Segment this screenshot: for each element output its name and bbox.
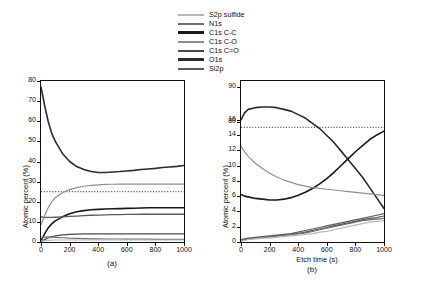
series-line-o1s [41,87,184,173]
y-tick-label: 0 [214,237,236,244]
panel-b-tag: (b) [292,265,332,274]
y-tick-label: 80 [214,117,236,124]
x-tick-mark [298,243,299,246]
x-tick-mark [270,243,271,246]
y-tick-mark [37,121,40,122]
x-tick-mark [384,243,385,246]
x-tick-label: 0 [26,246,56,253]
y-tick-label: 40 [14,157,36,164]
y-tick-label: 70 [14,96,36,103]
y-tick-label: 50 [14,136,36,143]
y-tick-label: 2 [214,222,236,229]
series-line-si2p [41,214,184,217]
y-tick-label: 10 [14,217,36,224]
y-tick-mark [37,222,40,223]
y-tick-mark [237,196,240,197]
x-tick-label: 800 [340,246,370,253]
y-tick-mark [37,242,40,243]
y-tick-mark [37,141,40,142]
y-tick-mark [237,242,240,243]
series-line-si2p [241,214,384,240]
x-tick-mark [98,243,99,246]
y-tick-label: 0 [14,237,36,244]
x-tick-label: 200 [255,246,285,253]
y-tick-label: 30 [14,177,36,184]
series-line-c1s-c-c [241,131,384,200]
x-tick-label: 400 [283,246,313,253]
y-tick-label: 8 [214,176,236,183]
y-tick-label: 90 [214,82,236,89]
series-line-s2p-sulfide [41,240,184,241]
y-tick-mark [37,101,40,102]
y-tick-label: 20 [14,197,36,204]
panel-b-plot-area [240,80,385,243]
panel-a-plot-area [40,80,185,243]
y-tick-label: 14 [214,130,236,137]
y-tick-label: 12 [214,145,236,152]
x-tick-label: 600 [312,246,342,253]
y-tick-mark [237,227,240,228]
y-tick-mark [237,135,240,136]
y-tick-mark [37,182,40,183]
x-axis-label: Etch time (s) [272,255,362,264]
figure-root: S2p sulfide N1s C1s C-C C1s C-O C1s C=O … [0,0,441,296]
y-tick-mark [237,120,240,121]
panel-a-tag: (a) [92,259,132,268]
series-line-n1s [41,237,184,239]
panel-b: Atomic percent (%) 02468101214168090 020… [200,0,441,296]
x-tick-label: 600 [112,246,142,253]
x-tick-mark [327,243,328,246]
x-tick-mark [355,243,356,246]
y-tick-mark [237,211,240,212]
series-line-c1s-c-o [41,184,184,225]
y-tick-mark [237,181,240,182]
series-line-c1s-c-o [241,146,384,195]
y-tick-label: 4 [214,206,236,213]
x-tick-label: 200 [55,246,85,253]
y-tick-mark [37,81,40,82]
x-tick-label: 1000 [369,246,399,253]
y-tick-mark [237,150,240,151]
y-tick-mark [37,202,40,203]
y-tick-mark [237,166,240,167]
y-tick-mark [37,162,40,163]
panel-a: Atomic percent (%) 01020304050607080 020… [0,0,200,296]
x-tick-label: 1000 [169,246,199,253]
x-tick-mark [241,243,242,246]
x-tick-mark [184,243,185,246]
y-tick-mark [237,122,240,123]
y-tick-label: 10 [214,161,236,168]
x-tick-mark [41,243,42,246]
x-tick-label: 0 [226,246,256,253]
x-tick-label: 400 [83,246,113,253]
y-tick-label: 6 [214,191,236,198]
y-tick-label: 80 [14,76,36,83]
x-tick-mark [155,243,156,246]
y-tick-label: 60 [14,116,36,123]
y-tick-mark [237,87,240,88]
x-tick-mark [70,243,71,246]
x-tick-mark [127,243,128,246]
series-line-c1s-c-c [41,208,184,241]
x-tick-label: 800 [140,246,170,253]
